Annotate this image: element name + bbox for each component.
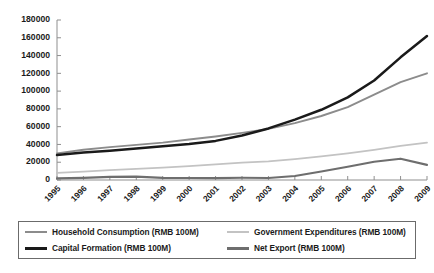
data-series-group xyxy=(57,36,427,178)
legend-swatch xyxy=(25,231,47,233)
y-tick-label: 100000 xyxy=(21,85,50,95)
legend-item: Net Export (RMB 100M) xyxy=(227,243,411,253)
x-tick-label: 1997 xyxy=(95,183,115,203)
x-tick-label: 2000 xyxy=(174,183,194,203)
series-line xyxy=(57,73,427,153)
x-tick-label: 1995 xyxy=(42,183,62,203)
legend-label: Net Export (RMB 100M) xyxy=(254,243,345,253)
x-tick-label: 1998 xyxy=(121,183,141,203)
legend-swatch xyxy=(25,247,47,250)
y-tick-label: 120000 xyxy=(21,68,50,78)
x-axis-tick-labels: 1995199619971998199920002001200220032004… xyxy=(42,183,432,203)
chart-svg: 0200004000060000800001000001200001400001… xyxy=(0,0,434,215)
legend-swatch xyxy=(227,247,249,250)
line-chart: 0200004000060000800001000001200001400001… xyxy=(0,0,434,273)
x-tick-label: 2007 xyxy=(359,183,379,203)
legend-item: Capital Formation (RMB 100M) xyxy=(25,243,227,253)
y-tick-label: 160000 xyxy=(21,32,50,42)
y-tick-label: 0 xyxy=(45,174,50,184)
x-tick-label: 1996 xyxy=(69,183,89,203)
x-tick-label: 2005 xyxy=(306,183,326,203)
legend-label: Household Consumption (RMB 100M) xyxy=(52,227,199,237)
x-tick-label: 1999 xyxy=(148,183,168,203)
y-tick-label: 60000 xyxy=(26,121,50,131)
legend-label: Capital Formation (RMB 100M) xyxy=(52,243,171,253)
y-tick-label: 20000 xyxy=(26,156,50,166)
legend-item: Household Consumption (RMB 100M) xyxy=(25,227,227,237)
plot-area: 0200004000060000800001000001200001400001… xyxy=(0,0,434,215)
legend-item: Government Expenditures (RMB 100M) xyxy=(227,227,411,237)
y-tick-label: 140000 xyxy=(21,50,50,60)
chart-legend: Household Consumption (RMB 100M)Governme… xyxy=(18,221,416,259)
x-tick-label: 2008 xyxy=(386,183,406,203)
y-axis-tick-labels: 0200004000060000800001000001200001400001… xyxy=(21,14,50,184)
legend-swatch xyxy=(227,231,249,233)
y-tick-label: 180000 xyxy=(21,14,50,24)
y-tick-label: 40000 xyxy=(26,139,50,149)
x-tick-label: 2009 xyxy=(412,183,432,203)
x-tick-label: 2003 xyxy=(254,183,274,203)
legend-label: Government Expenditures (RMB 100M) xyxy=(254,227,406,237)
x-tick-label: 2004 xyxy=(280,183,300,203)
x-tick-label: 2001 xyxy=(201,183,221,203)
y-tick-label: 80000 xyxy=(26,103,50,113)
x-tick-label: 2006 xyxy=(333,183,353,203)
series-line xyxy=(57,159,427,179)
x-tick-label: 2002 xyxy=(227,183,247,203)
